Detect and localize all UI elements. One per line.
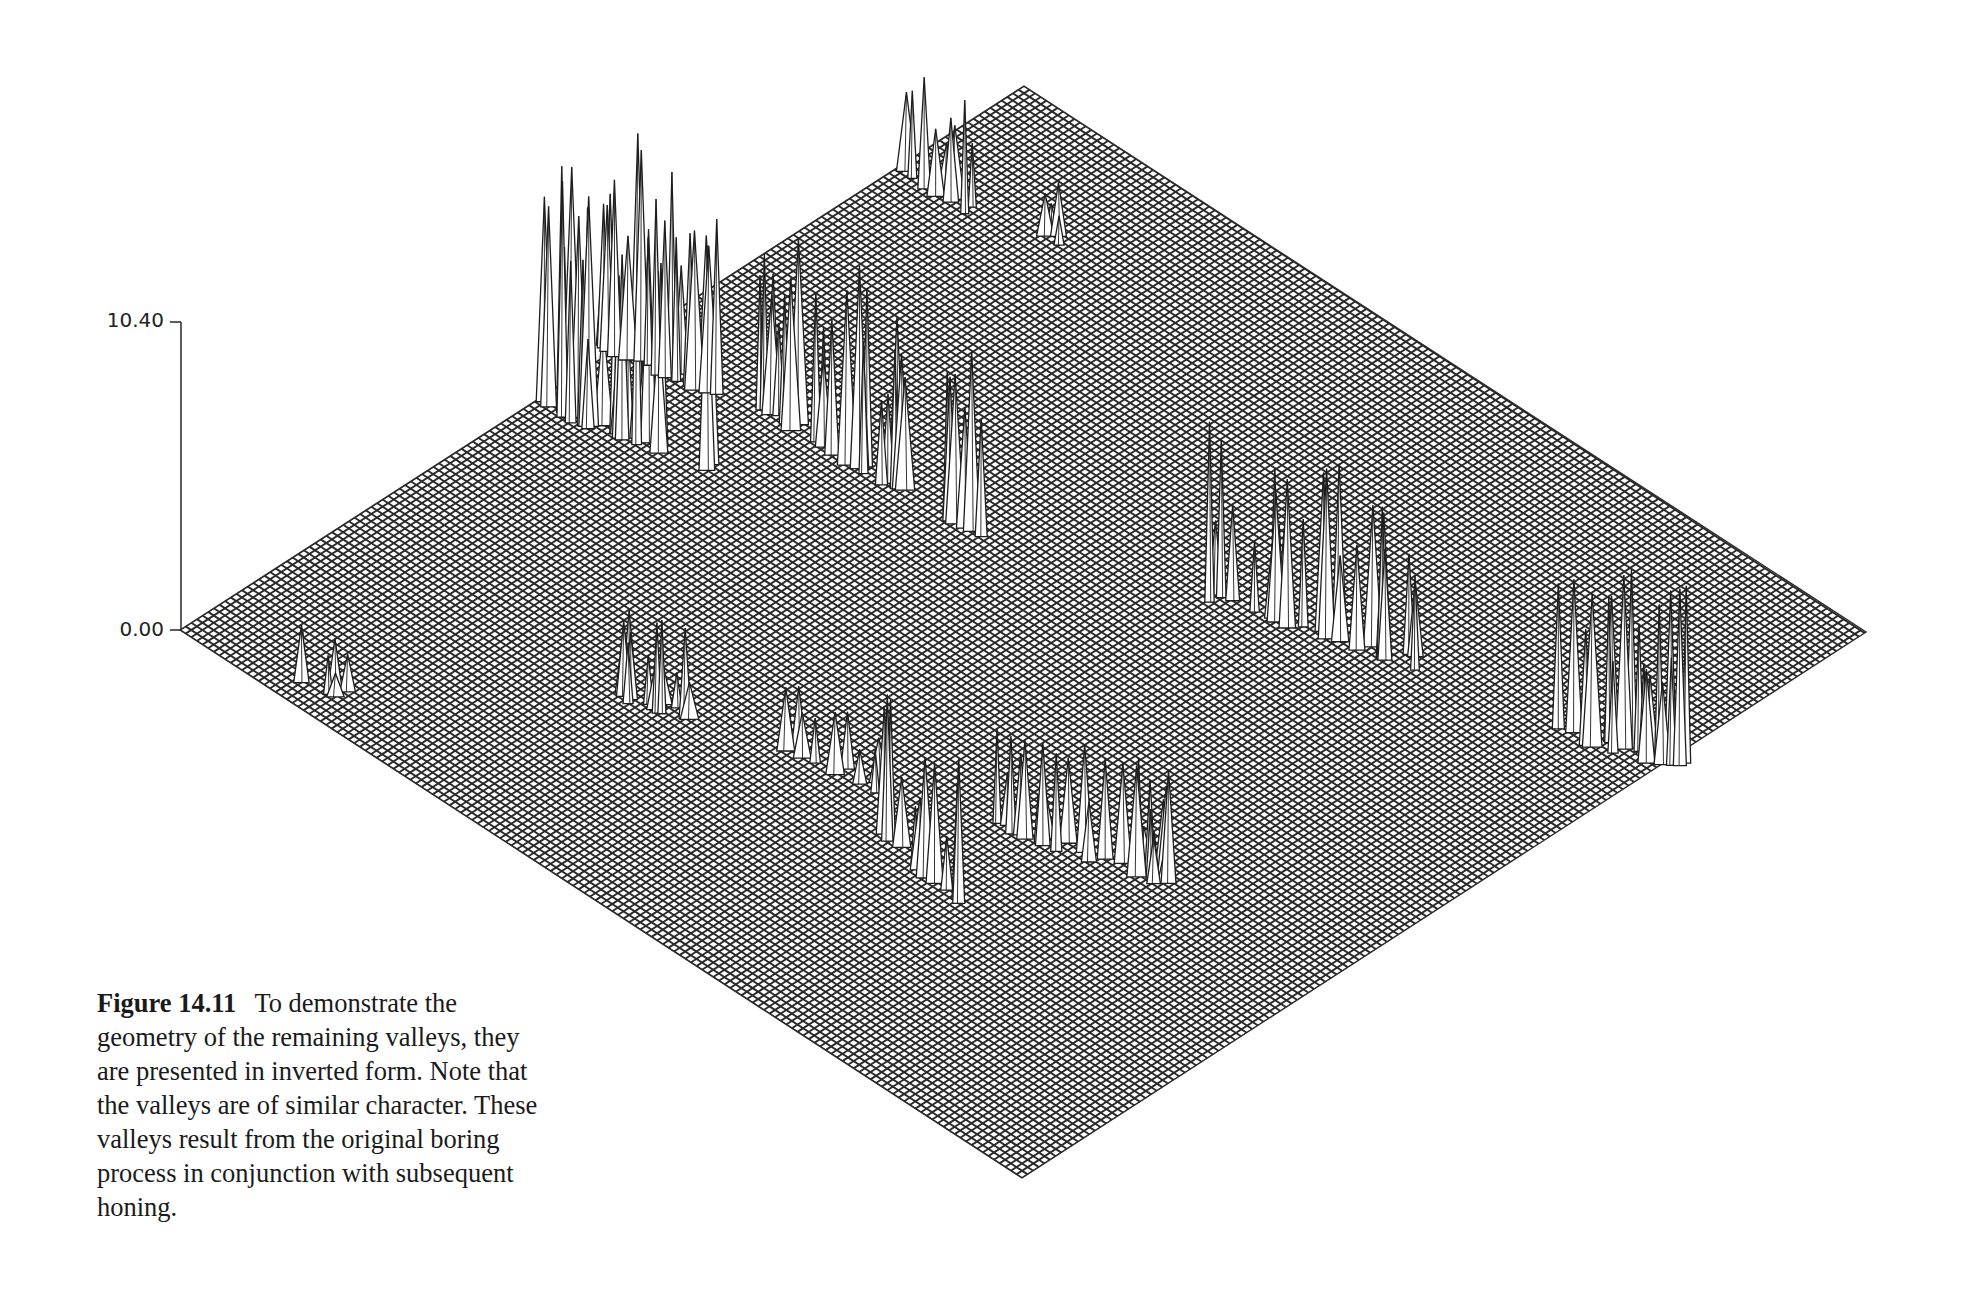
- peak-cluster: [596, 133, 723, 394]
- z-axis: [170, 322, 181, 630]
- figure-caption: Figure 14.11To demonstrate the geometry …: [97, 986, 557, 1224]
- z-max-label: 10.40: [84, 308, 164, 332]
- figure-number: Figure 14.11: [97, 988, 236, 1018]
- z-min-label: 0.00: [84, 617, 164, 641]
- caption-text: To demonstrate the geometry of the remai…: [97, 988, 537, 1222]
